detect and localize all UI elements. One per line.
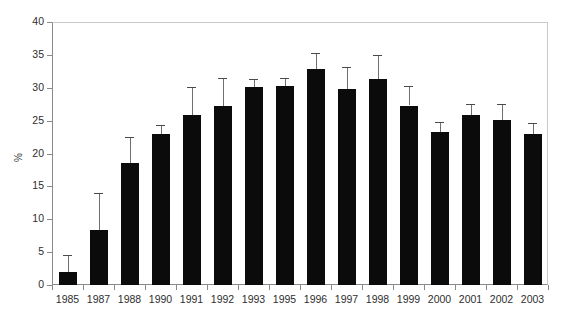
y-tick-label: 5 — [38, 245, 44, 257]
bar-1997 — [338, 89, 356, 285]
x-tick-mark — [83, 285, 84, 290]
bar-2001 — [462, 115, 480, 285]
error-bar-cap-2000 — [435, 122, 444, 123]
y-tick-label: 0 — [38, 278, 44, 290]
y-tick-mark — [47, 88, 52, 89]
x-tick-label-1990: 1990 — [145, 293, 176, 305]
y-tick-15: 15 — [0, 186, 52, 187]
error-bar-1985 — [68, 255, 69, 271]
error-bar-1990 — [161, 125, 162, 134]
bar-1988 — [121, 163, 139, 285]
x-tick-label-1993: 1993 — [238, 293, 269, 305]
bar-1991 — [183, 115, 201, 285]
x-tick-label-1996: 1996 — [300, 293, 331, 305]
x-tick-mark — [269, 285, 270, 290]
bar-2003 — [524, 134, 542, 285]
y-tick-mark — [47, 121, 52, 122]
error-bar-cap-2003 — [528, 123, 537, 124]
y-tick-mark — [47, 22, 52, 23]
y-axis-title: % — [13, 148, 24, 168]
x-tick-label-1991: 1991 — [176, 293, 207, 305]
error-bar-cap-1990 — [156, 125, 165, 126]
error-bar-cap-1997 — [342, 67, 351, 68]
x-tick-mark — [331, 285, 332, 290]
bar-1995 — [276, 86, 294, 285]
error-bar-1995 — [285, 78, 286, 87]
y-tick-mark — [47, 252, 52, 253]
y-tick-20: 20 — [0, 154, 52, 155]
y-tick-label: 30 — [32, 81, 44, 93]
error-bar-cap-1995 — [280, 78, 289, 79]
bar-1998 — [369, 79, 387, 285]
error-bar-cap-1996 — [311, 53, 320, 54]
x-tick-mark — [300, 285, 301, 290]
x-tick-label-2002: 2002 — [486, 293, 517, 305]
y-tick-35: 35 — [0, 55, 52, 56]
x-tick-mark — [455, 285, 456, 290]
x-tick-label-2003: 2003 — [517, 293, 548, 305]
x-tick-label-1999: 1999 — [393, 293, 424, 305]
x-tick-label-1988: 1988 — [114, 293, 145, 305]
y-tick-label: 25 — [32, 114, 44, 126]
y-tick-mark — [47, 154, 52, 155]
bar-1996 — [307, 69, 325, 285]
error-bar-cap-1991 — [187, 87, 196, 88]
error-bar-1996 — [316, 53, 317, 69]
error-bar-2000 — [440, 122, 441, 133]
y-tick-label: 20 — [32, 147, 44, 159]
x-tick-mark — [238, 285, 239, 290]
x-tick-label-1987: 1987 — [83, 293, 114, 305]
error-bar-2001 — [471, 104, 472, 116]
error-bar-1993 — [254, 79, 255, 87]
x-tick-label-2000: 2000 — [424, 293, 455, 305]
y-tick-label: 40 — [32, 15, 44, 27]
bar-1985 — [59, 272, 77, 285]
error-bar-1987 — [99, 193, 100, 230]
error-bar-2003 — [533, 123, 534, 135]
error-bar-2002 — [502, 104, 503, 120]
y-tick-label: 10 — [32, 212, 44, 224]
x-tick-mark — [486, 285, 487, 290]
x-tick-mark — [548, 285, 549, 290]
x-tick-mark — [207, 285, 208, 290]
bar-1987 — [90, 230, 108, 285]
error-bar-1997 — [347, 67, 348, 89]
x-tick-mark — [424, 285, 425, 290]
error-bar-cap-1985 — [63, 255, 72, 256]
error-bar-cap-1988 — [125, 137, 134, 138]
y-tick-label: 35 — [32, 48, 44, 60]
error-bar-cap-2001 — [466, 104, 475, 105]
bar-2002 — [493, 120, 511, 285]
x-tick-mark — [362, 285, 363, 290]
error-bar-1991 — [192, 87, 193, 115]
error-bar-1992 — [223, 78, 224, 106]
bar-1990 — [152, 134, 170, 285]
bar-1999 — [400, 106, 418, 285]
error-bar-cap-1992 — [218, 78, 227, 79]
y-tick-mark — [47, 55, 52, 56]
x-tick-label-1997: 1997 — [331, 293, 362, 305]
x-tick-label-1992: 1992 — [207, 293, 238, 305]
error-bar-cap-1993 — [249, 79, 258, 80]
x-tick-label-1995: 1995 — [269, 293, 300, 305]
y-tick-mark — [47, 219, 52, 220]
y-tick-label: 15 — [32, 179, 44, 191]
y-tick-30: 30 — [0, 88, 52, 89]
x-tick-label-1985: 1985 — [52, 293, 83, 305]
y-tick-25: 25 — [0, 121, 52, 122]
bar-1993 — [245, 87, 263, 285]
x-tick-label-2001: 2001 — [455, 293, 486, 305]
y-tick-mark — [47, 186, 52, 187]
y-tick-40: 40 — [0, 22, 52, 23]
y-tick-10: 10 — [0, 219, 52, 220]
x-tick-mark — [114, 285, 115, 290]
x-tick-mark — [393, 285, 394, 290]
x-tick-mark — [145, 285, 146, 290]
error-bar-cap-1998 — [373, 55, 382, 56]
error-bar-1988 — [130, 137, 131, 163]
bar-1992 — [214, 106, 232, 285]
error-bar-cap-2002 — [497, 104, 506, 105]
y-tick-0: 0 — [0, 285, 52, 286]
bar-2000 — [431, 132, 449, 285]
error-bar-cap-1987 — [94, 193, 103, 194]
